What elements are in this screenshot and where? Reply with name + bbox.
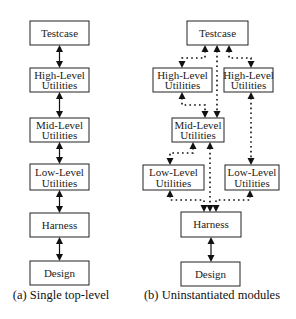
arrow-b-low-left-harness: [167, 190, 205, 206]
box-b-high-level-right: High-Level Utilities: [223, 68, 274, 92]
box-label: Utilities: [180, 129, 215, 141]
box-label: Utilities: [234, 177, 269, 189]
box-b-low-level-left: Low-Level Utilities: [143, 165, 204, 190]
arrow-b-mid-harness: [207, 142, 214, 206]
arrow-b-testcase-high-right: [226, 45, 255, 68]
box-a-testcase: Testcase: [30, 21, 89, 45]
box-b-low-level-right: Low-Level Utilities: [225, 165, 279, 190]
arrow-a-testcase-high: [56, 45, 63, 68]
arrow-b-high-right-low-right: [248, 92, 255, 165]
arrow-b-testcase-mid: [214, 45, 221, 118]
arrow-b-harness-design: [208, 237, 215, 262]
arrow-b-testcase-high-left: [179, 45, 209, 68]
box-label: Design: [44, 267, 76, 279]
arrow-b-mid-low-left: [167, 142, 197, 165]
arrow-a-mid-low: [56, 142, 63, 164]
diagram-canvas: Testcase High-Level Utilities Mid-Level …: [0, 0, 296, 319]
box-a-low-level: Low-Level Utilities: [30, 164, 89, 190]
box-label: Testcase: [41, 27, 78, 39]
box-label: Utilities: [231, 79, 266, 91]
box-label: Harness: [193, 218, 228, 230]
box-label: Utilities: [42, 79, 77, 91]
box-b-testcase: Testcase: [187, 21, 248, 45]
box-label: Design: [195, 268, 227, 280]
diagram-b: Testcase High-Level Utilities High-Level…: [143, 21, 280, 302]
box-a-design: Design: [30, 261, 89, 285]
box-label: Utilities: [165, 79, 200, 91]
arrow-b-high-left-mid: [179, 92, 209, 118]
box-label: Harness: [42, 219, 77, 231]
box-b-high-level-left: High-Level Utilities: [153, 68, 212, 92]
box-a-harness: Harness: [30, 213, 89, 237]
caption-b: (b) Uninstantiated modules: [144, 288, 280, 302]
box-a-high-level: High-Level Utilities: [30, 68, 89, 92]
box-b-mid-level: Mid-Level Utilities: [172, 118, 224, 142]
box-b-harness: Harness: [181, 212, 241, 237]
arrow-b-low-right-harness: [216, 190, 254, 206]
box-a-mid-level: Mid-Level Utilities: [30, 118, 89, 142]
box-label: Utilities: [156, 177, 191, 189]
box-b-design: Design: [181, 262, 240, 286]
box-label: Utilities: [42, 177, 77, 189]
box-label: Utilities: [42, 129, 77, 141]
arrowheads-b-into-harness: [201, 205, 220, 212]
box-label: Testcase: [199, 27, 236, 39]
arrow-a-low-harness: [56, 190, 63, 213]
arrow-a-harness-design: [56, 237, 63, 261]
caption-a: (a) Single top-level: [13, 288, 110, 302]
diagram-a: Testcase High-Level Utilities Mid-Level …: [13, 21, 110, 302]
arrow-a-high-mid: [56, 92, 63, 118]
